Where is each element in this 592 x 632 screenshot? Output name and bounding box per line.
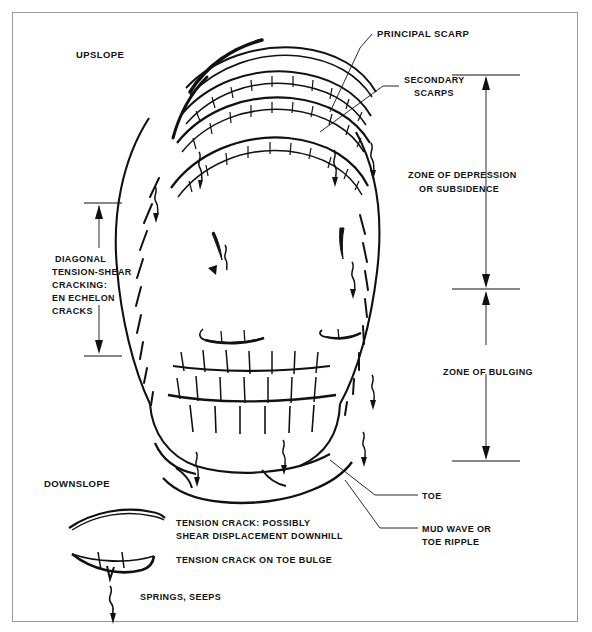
label-diagonal-line2: TENSION-SHEAR bbox=[52, 267, 132, 277]
bulge-transverse-cracks bbox=[168, 350, 336, 434]
figure-canvas: UPSLOPE DOWNSLOPE PRINCIPAL SCARP SECOND… bbox=[0, 0, 592, 632]
label-zone-depression-line2: OR SUBSIDENCE bbox=[419, 184, 499, 194]
label-diagonal-line4: EN ECHELON bbox=[52, 293, 115, 303]
springs-seeps-arrows bbox=[153, 143, 376, 487]
callout-leader-lines bbox=[320, 34, 418, 528]
zone-dimension-lines bbox=[452, 75, 520, 461]
label-diagonal-line5: CRACKS bbox=[52, 306, 93, 316]
label-secondary-scarps-line1: SECONDARY bbox=[404, 75, 465, 85]
tension-crack-symbols-depression bbox=[212, 228, 344, 260]
diagram-drawing: UPSLOPE DOWNSLOPE PRINCIPAL SCARP SECOND… bbox=[0, 0, 592, 632]
leader-mud-wave bbox=[345, 480, 418, 528]
toe-mud-waves bbox=[155, 443, 352, 503]
label-mud-wave-line2: TOE RIPPLE bbox=[422, 537, 479, 547]
label-diagonal-line1: DIAGONAL bbox=[55, 254, 106, 264]
label-diagonal-line3: CRACKING: bbox=[52, 280, 107, 290]
legend-item-1-line1: TENSION CRACK ON TOE BULGE bbox=[176, 555, 332, 565]
label-zone-bulging: ZONE OF BULGING bbox=[443, 367, 533, 377]
legend-symbol-springs-seeps bbox=[109, 586, 116, 624]
label-mud-wave-line1: MUD WAVE OR bbox=[422, 524, 491, 534]
label-downslope: DOWNSLOPE bbox=[44, 478, 110, 489]
label-principal-scarp: PRINCIPAL SCARP bbox=[377, 28, 469, 39]
toe-bulge-crack-symbols-upper bbox=[200, 329, 361, 344]
legend-item-0-line1: TENSION CRACK: POSSIBLY bbox=[176, 518, 310, 528]
label-upslope: UPSLOPE bbox=[76, 49, 124, 60]
leader-toe bbox=[330, 460, 418, 495]
label-secondary-scarps-line2: SCARPS bbox=[414, 88, 454, 98]
legend-symbol-tension-crack bbox=[69, 510, 165, 530]
en-echelon-cracks-left bbox=[136, 178, 159, 405]
label-zone-depression-line1: ZONE OF DEPRESSION bbox=[408, 170, 517, 180]
legend-item-0-line2: SHEAR DISPLACEMENT DOWNHILL bbox=[176, 531, 343, 541]
label-toe: TOE bbox=[422, 491, 442, 501]
leader-principal-scarp bbox=[330, 34, 372, 112]
legend-symbol-toe-bulge-crack bbox=[72, 552, 154, 579]
legend-item-2-line1: SPRINGS, SEEPS bbox=[140, 592, 221, 602]
